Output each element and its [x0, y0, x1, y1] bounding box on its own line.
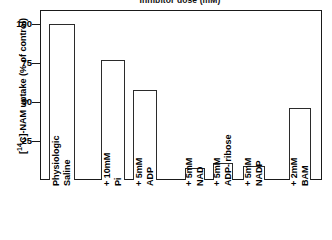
x-axis-label-line1: + 5mM: [243, 132, 254, 186]
x-axis-category-label: + 2mMBAM: [289, 132, 310, 186]
x-axis-label-line1: Physiologic: [51, 132, 62, 186]
x-axis-label-line1: + 5mM: [134, 132, 145, 186]
x-axis-label-line2: ADP- ribose: [223, 132, 234, 186]
x-axis-category-label: PhysiologicSaline: [51, 132, 72, 186]
x-axis-category-label: + 5mMNADP: [243, 132, 264, 186]
x-axis-label-line2: BAM: [300, 132, 311, 186]
x-axis-label-line2: NADP: [254, 132, 265, 186]
bar-series: [0, 0, 332, 240]
x-axis-category-label: + 5mMADP- ribose: [212, 132, 233, 186]
x-axis-label-line1: + 10mM: [102, 132, 113, 186]
x-axis-label-line1: + 5mM: [184, 132, 195, 186]
x-axis-label-line2: ADP: [145, 132, 156, 186]
x-axis-label-line1: + 2mM: [289, 132, 300, 186]
x-axis-label-line1: + 5mM: [212, 132, 223, 186]
x-axis-label-line2: NAD: [195, 132, 206, 186]
x-axis-category-label: + 10mMPi: [102, 132, 123, 186]
bar-chart-figure: Inhibitor dose (mM) [14C]-NAM uptake (% …: [0, 0, 332, 240]
x-axis-category-label: + 5mMNAD: [184, 132, 205, 186]
x-axis-category-label: + 5mMADP: [134, 132, 155, 186]
x-axis-label-line2: Pi: [113, 132, 124, 186]
x-axis-label-line2: Saline: [62, 132, 73, 186]
